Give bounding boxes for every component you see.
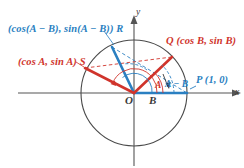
angle-arc-a	[113, 69, 158, 93]
y-axis-label: y	[136, 8, 140, 18]
a-minus-b-leader	[190, 86, 196, 89]
x-axis-label: x	[235, 88, 239, 98]
point-label-p: P (1, 0)	[196, 75, 228, 86]
angle-label-a: A	[155, 81, 161, 91]
point-label-q: Q (cos B, sin B)	[166, 36, 236, 47]
unit-circle-figure: (cos(A − B), sin(A − B)) R (cos A, sin A…	[0, 0, 244, 168]
point-label-s: (cos A, sin A) S	[18, 57, 86, 68]
point-label-r: (cos(A − B), sin(A − B)) R	[8, 24, 123, 35]
origin-label: O	[125, 95, 133, 106]
chord-sq-dashed	[85, 57, 172, 68]
angle-label-a-minus-b: A − B	[165, 80, 188, 90]
angle-label-b: B	[149, 95, 156, 106]
